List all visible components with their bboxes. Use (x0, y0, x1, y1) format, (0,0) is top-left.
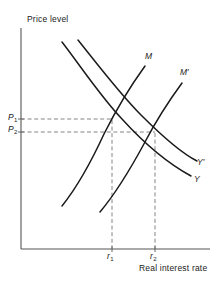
r2-subscript: 2 (153, 256, 156, 262)
x-axis-title: Real interest rate (139, 264, 207, 273)
y-axis-title: Price level (27, 15, 68, 24)
curve-m (62, 66, 145, 206)
curve-label-y-prime: Y′ (197, 158, 204, 167)
plot-canvas (0, 0, 224, 281)
p1-subscript: 1 (14, 117, 17, 123)
curve-y-prime (78, 40, 197, 161)
p1-symbol: P (8, 112, 14, 122)
economics-diagram-figure: Price level Real interest rate P1 P2 r1 … (0, 0, 224, 281)
x-tick-label-r2: r2 (150, 252, 156, 261)
curve-label-y: Y (194, 175, 200, 184)
p2-symbol: P (8, 124, 14, 134)
x-tick-label-r1: r1 (107, 252, 113, 261)
y-tick-label-p1: P1 (8, 113, 17, 122)
curve-label-m: M (145, 52, 152, 61)
curve-label-m-prime: M′ (180, 68, 189, 77)
r1-subscript: 1 (110, 256, 113, 262)
curve-y (62, 42, 191, 176)
p2-subscript: 2 (14, 129, 17, 135)
y-tick-label-p2: P2 (8, 125, 17, 134)
